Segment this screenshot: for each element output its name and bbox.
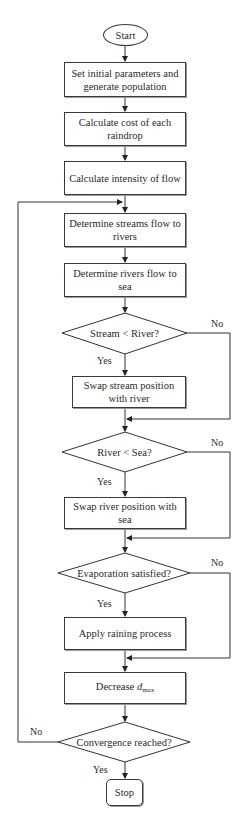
decision-convergence: Convergence reached? bbox=[58, 722, 190, 762]
step-raining-label: Apply raining process bbox=[79, 627, 172, 640]
decision-river-sea: River < Sea? bbox=[62, 432, 187, 472]
step-swap-stream: Swap stream position with river bbox=[72, 376, 186, 408]
evaporation-no-label: No bbox=[211, 557, 223, 568]
step-streams-label: Determine streams flow to rivers bbox=[68, 217, 182, 243]
river-sea-no-label: No bbox=[211, 437, 223, 448]
start-terminal: Start bbox=[103, 24, 148, 46]
step-streams: Determine streams flow to rivers bbox=[64, 213, 186, 247]
step-cost-label: Calculate cost of each raindrop bbox=[68, 116, 182, 142]
decision-stream-river: Stream < River? bbox=[62, 313, 187, 354]
step-rivers-label: Determine rivers flow to sea bbox=[68, 267, 182, 293]
step-init-label: Set initial parameters and generate popu… bbox=[68, 67, 182, 93]
convergence-yes-label: Yes bbox=[93, 764, 108, 775]
stream-river-no-label: No bbox=[211, 318, 223, 329]
step-raining: Apply raining process bbox=[64, 617, 186, 650]
stop-label: Stop bbox=[115, 787, 134, 798]
start-label: Start bbox=[116, 30, 136, 41]
step-decrease-label: Decrease dmax bbox=[96, 680, 154, 697]
step-init: Set initial parameters and generate popu… bbox=[64, 62, 186, 97]
river-sea-yes-label: Yes bbox=[97, 476, 112, 487]
evaporation-yes-label: Yes bbox=[97, 598, 112, 609]
step-rivers: Determine rivers flow to sea bbox=[64, 263, 186, 297]
step-intensity: Calculate intensity of flow bbox=[64, 161, 186, 195]
convergence-no-label: No bbox=[30, 726, 42, 737]
stop-terminal: Stop bbox=[106, 779, 143, 806]
step-swap-stream-label: Swap stream position with river bbox=[76, 379, 182, 405]
stream-river-yes-label: Yes bbox=[97, 355, 112, 366]
step-swap-river: Swap river position with sea bbox=[64, 497, 186, 529]
step-swap-river-label: Swap river position with sea bbox=[68, 500, 182, 526]
step-decrease: Decrease dmax bbox=[64, 672, 186, 704]
decision-evaporation: Evaporation satisfied? bbox=[58, 553, 190, 593]
step-cost: Calculate cost of each raindrop bbox=[64, 112, 186, 146]
step-intensity-label: Calculate intensity of flow bbox=[69, 172, 181, 185]
